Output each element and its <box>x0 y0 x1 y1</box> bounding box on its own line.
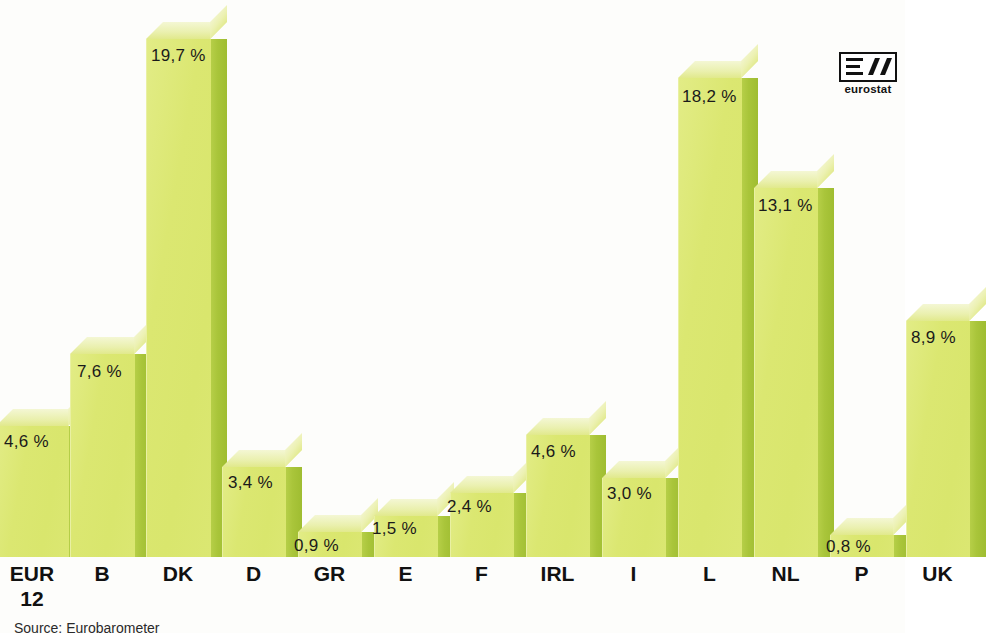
x-label-p-line1: P <box>854 562 868 585</box>
x-label-dk-line1: DK <box>163 562 193 585</box>
bar-top-side-wedge <box>210 5 227 39</box>
bar-group-l[interactable]: 18,2 % <box>678 78 741 557</box>
bar-front-face <box>906 321 970 557</box>
bar-front-face <box>754 188 818 557</box>
x-label-e-line1: E <box>398 562 412 585</box>
x-label-eur12-line2: 12 <box>0 586 68 611</box>
bar-group-eur12[interactable]: 4,6 % <box>0 426 68 557</box>
bar-value-label: 3,4 % <box>228 473 273 493</box>
bar-group-i[interactable]: 3,0 % <box>602 478 665 557</box>
bar-group-p[interactable]: 0,8 % <box>830 535 893 557</box>
bar-value-label: 4,6 % <box>4 432 49 452</box>
bar-group-gr[interactable]: 0,9 % <box>298 532 361 557</box>
x-label-gr: GR <box>298 561 361 586</box>
bar-group-b[interactable]: 7,6 % <box>70 354 134 557</box>
x-label-uk-line1: UK <box>922 562 952 585</box>
bar-group-e[interactable]: 1,5 % <box>374 516 437 557</box>
source-note: Source: Eurobarometer <box>14 620 160 633</box>
eurostat-emblem-icon <box>841 54 895 80</box>
bar-value-label: 0,8 % <box>826 537 871 557</box>
bar-top-side-wedge <box>285 433 302 467</box>
bar-value-label: 7,6 % <box>77 362 122 382</box>
x-label-e: E <box>374 561 437 586</box>
bar-value-label: 1,5 % <box>372 519 417 539</box>
bar-top-side-wedge <box>589 401 606 435</box>
x-label-eur12: EUR 12 <box>0 561 68 611</box>
bar-side-face <box>969 321 986 557</box>
bar-front-face <box>146 39 211 557</box>
bar-front-face <box>70 354 135 557</box>
bar-top-side-wedge <box>817 154 834 188</box>
bar-value-label: 18,2 % <box>682 87 737 107</box>
bar-top-side-wedge <box>741 44 758 78</box>
bar-group-dk[interactable]: 19,7 % <box>146 39 210 557</box>
bar-group-uk[interactable]: 8,9 % <box>906 321 969 557</box>
bar-value-label: 2,4 % <box>447 497 492 517</box>
x-label-i: I <box>602 561 665 586</box>
x-label-l-line1: L <box>703 562 716 585</box>
x-label-dk: DK <box>146 561 210 586</box>
bar-value-label: 19,7 % <box>151 46 206 66</box>
x-label-b-line1: B <box>94 562 109 585</box>
x-label-irl: IRL <box>526 561 589 586</box>
eurostat-logo-icon <box>839 52 897 82</box>
bar-group-f[interactable]: 2,4 % <box>450 493 513 557</box>
x-label-uk: UK <box>906 561 969 586</box>
bar-group-irl[interactable]: 4,6 % <box>526 435 589 557</box>
bar-group-d[interactable]: 3,4 % <box>222 467 285 557</box>
bar-side-face <box>817 188 834 557</box>
bar-value-label: 3,0 % <box>607 484 652 504</box>
x-label-f-line1: F <box>475 562 488 585</box>
eurostat-logo: eurostat <box>839 52 897 95</box>
x-label-irl-line1: IRL <box>541 562 575 585</box>
x-label-l: L <box>678 561 741 586</box>
bar-value-label: 0,9 % <box>294 536 339 556</box>
x-label-p: P <box>830 561 893 586</box>
eurostat-wordmark: eurostat <box>839 83 897 95</box>
bar-value-label: 8,9 % <box>911 328 956 348</box>
x-label-gr-line1: GR <box>314 562 346 585</box>
x-label-b: B <box>70 561 134 586</box>
bar-chart-plot-area: 4,6 % 7,6 % 19,7 % 3,4 % <box>0 0 905 557</box>
bar-value-label: 13,1 % <box>758 196 813 216</box>
x-label-nl: NL <box>754 561 817 586</box>
x-label-i-line1: I <box>631 562 637 585</box>
x-label-d: D <box>222 561 285 586</box>
x-label-f: F <box>450 561 513 586</box>
bar-group-nl[interactable]: 13,1 % <box>754 188 817 557</box>
x-label-eur12-line1: EUR <box>10 562 54 585</box>
x-label-nl-line1: NL <box>772 562 800 585</box>
bar-front-face <box>678 78 742 557</box>
x-label-d-line1: D <box>246 562 261 585</box>
bar-value-label: 4,6 % <box>531 442 576 462</box>
bar-top-side-wedge <box>969 287 986 321</box>
